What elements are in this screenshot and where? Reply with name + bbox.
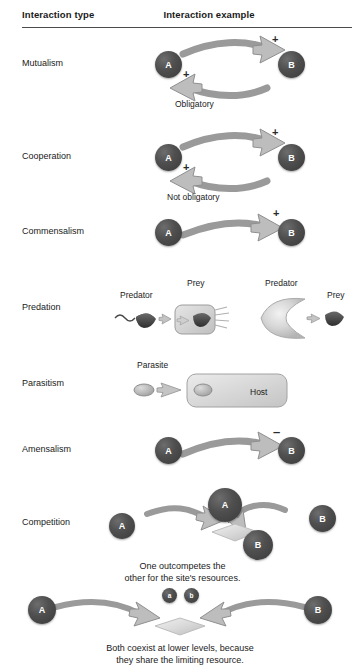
sign-plus-a: + <box>183 162 189 173</box>
label-parasite: Parasite <box>137 360 168 370</box>
mutualism-arrows <box>95 30 360 115</box>
row-label-parasitism: Parasitism <box>22 378 64 388</box>
organism-node-b: B <box>278 219 305 246</box>
organism-node-a: A <box>155 144 182 171</box>
panel-parasitism: Parasite <box>95 352 360 412</box>
organism-node-b: B <box>304 596 332 624</box>
row-amensalism: Amensalism A B – <box>0 424 360 482</box>
organism-node-a: A <box>155 51 182 78</box>
amensalism-arrow <box>95 424 360 482</box>
label-host: Host <box>250 387 267 397</box>
panel-predation: Predator Prey <box>95 278 360 340</box>
panel-commensalism: A B + <box>95 208 360 270</box>
commensalism-arrow <box>95 208 360 270</box>
organism-node-b: B <box>278 144 305 171</box>
label-predator-left: Predator <box>120 290 153 300</box>
row-cooperation: Cooperation A B + + Not obligatory <box>0 123 360 208</box>
sign-minus-b: – <box>273 425 280 438</box>
organism-node-a-reduced: a <box>162 588 177 603</box>
sign-plus-b: + <box>272 34 278 45</box>
header-divider <box>22 27 352 28</box>
organism-node-a: A <box>155 437 182 464</box>
panel-mutualism: A B + + Obligatory <box>95 30 360 115</box>
panel-coexistence: A B a b Both coexist at lower levels, be… <box>0 588 360 672</box>
caption-not-obligatory: Not obligatory <box>167 192 219 202</box>
organism-node-b-small: B <box>243 530 273 560</box>
caption-coexistence-line2: they share the limiting resource. <box>0 654 360 666</box>
panel-competition: A A B B One outcompetes the other for th… <box>95 486 360 582</box>
sign-plus-b: + <box>272 127 278 138</box>
label-prey-left: Prey <box>187 278 204 288</box>
organism-node-a: A <box>155 219 182 246</box>
caption-coexistence-line1: Both coexist at lower levels, because <box>0 642 360 654</box>
row-label-competition: Competition <box>22 517 70 527</box>
row-parasitism: Parasitism Parasite <box>0 352 360 412</box>
panel-cooperation: A B + + Not obligatory <box>95 123 360 208</box>
row-competition: Competition A A <box>0 486 360 582</box>
row-predation: Predation Predator Prey <box>0 278 360 340</box>
label-predator-right: Predator <box>265 278 298 288</box>
predation-left-illustration <box>113 300 253 345</box>
organism-node-a-small: A <box>109 513 135 539</box>
row-label-commensalism: Commensalism <box>22 226 84 236</box>
organism-node-b: B <box>278 51 305 78</box>
sign-plus-a: + <box>183 69 189 80</box>
row-label-predation: Predation <box>22 302 61 312</box>
parasitism-illustration <box>133 374 333 419</box>
row-label-cooperation: Cooperation <box>22 151 71 161</box>
row-label-amensalism: Amensalism <box>22 444 71 454</box>
sign-plus-b: + <box>273 208 279 219</box>
predation-right-illustration <box>247 296 357 341</box>
cooperation-arrows <box>95 123 360 208</box>
coexistence-illustration-wrap: A B a b Both coexist at lower levels, be… <box>0 588 360 672</box>
panel-amensalism: A B – <box>95 424 360 482</box>
organism-node-b-reduced: b <box>184 588 199 603</box>
row-label-mutualism: Mutualism <box>22 58 63 68</box>
caption-competition-line1: One outcompetes the <box>50 560 315 572</box>
table-header: Interaction type Interaction example <box>0 0 360 30</box>
caption-competition-line2: other for the site's resources. <box>50 572 315 584</box>
organism-node-a-large: A <box>208 488 242 522</box>
row-mutualism: Mutualism A B + + Obligatory <box>0 30 360 115</box>
caption-obligatory: Obligatory <box>175 99 214 109</box>
organism-node-b-large: B <box>309 505 336 532</box>
organism-node-a: A <box>28 596 56 624</box>
interaction-types-figure: Interaction type Interaction example Mut… <box>0 0 360 672</box>
row-commensalism: Commensalism A B + <box>0 208 360 270</box>
organism-node-b: B <box>278 437 305 464</box>
column-header-interaction-example: Interaction example <box>0 9 360 20</box>
